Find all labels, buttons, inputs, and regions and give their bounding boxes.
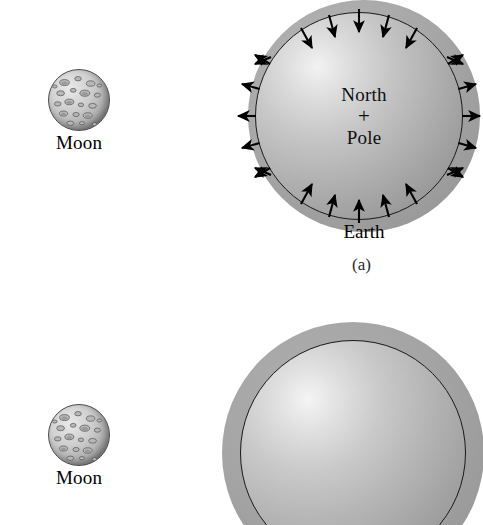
- moon-icon: [48, 404, 110, 466]
- moon-label: Moon: [56, 468, 102, 487]
- pole-cross-marker: +: [341, 106, 386, 127]
- moon-group-b: Moon: [48, 404, 110, 466]
- moon-icon: [48, 69, 110, 131]
- earth-group-a: North + Pole: [248, 0, 480, 232]
- moon-group-a: Moon: [48, 69, 110, 131]
- north-label: North: [341, 84, 386, 105]
- earth-label: Earth: [343, 222, 384, 241]
- earth-group-b: [222, 322, 483, 525]
- north-pole-label: North + Pole: [341, 84, 386, 149]
- pole-label: Pole: [347, 127, 382, 148]
- figure-canvas: Moon North + Pole: [0, 0, 483, 525]
- panel-a: Moon North + Pole: [0, 0, 483, 282]
- panel-a-caption: (a): [352, 256, 371, 273]
- moon-label: Moon: [56, 133, 102, 152]
